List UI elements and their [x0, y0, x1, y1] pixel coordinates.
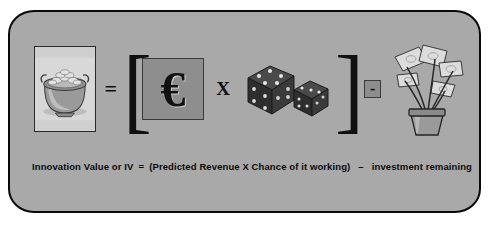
- minus-tile: -: [364, 80, 381, 98]
- caption-minus: –: [350, 161, 371, 172]
- close-bracket: ]: [335, 52, 353, 127]
- diagram-panel: = [ € X: [8, 10, 481, 213]
- dice-pair-icon: [242, 56, 334, 122]
- money-plant-image: [389, 41, 467, 137]
- minus-icon: -: [370, 81, 375, 97]
- caption-row: Innovation Value or IV = (Predicted Reve…: [32, 155, 472, 177]
- money-plant-icon: [389, 41, 467, 137]
- pot-of-gold-icon: [35, 47, 95, 131]
- open-bracket: [: [123, 52, 141, 127]
- pot-of-gold-image: [34, 46, 96, 132]
- euro-icon: €: [161, 64, 186, 114]
- diagram-canvas: = [ € X: [0, 0, 495, 229]
- equals-sign: =: [100, 76, 122, 102]
- multiplication-sign: X: [210, 78, 236, 100]
- caption-investment: investment remaining: [372, 161, 472, 172]
- dice-pair-image: [242, 56, 334, 122]
- caption-expression: (Predicted Revenue X Chance of it workin…: [149, 161, 350, 172]
- bracket-group: € X: [142, 56, 334, 122]
- caption-equals: =: [133, 161, 149, 172]
- formula-row: = [ € X: [24, 34, 467, 144]
- caption-label: Innovation Value or IV: [32, 161, 133, 172]
